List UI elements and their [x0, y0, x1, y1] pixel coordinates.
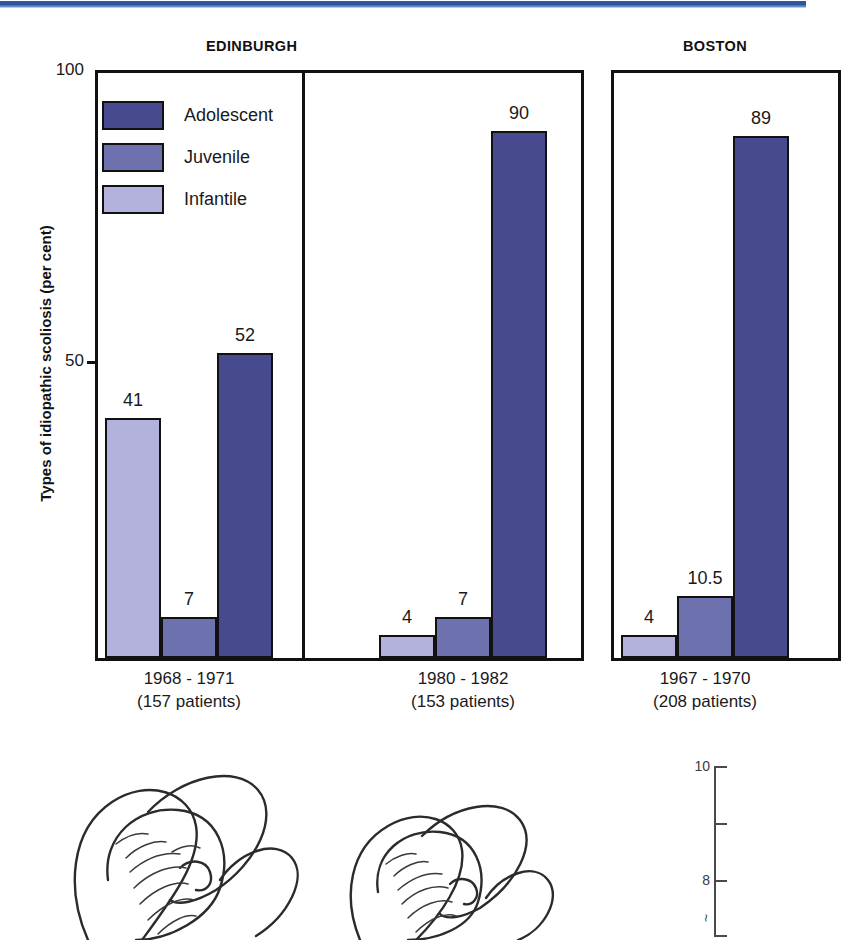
legend-swatch-adolescent: [102, 101, 164, 130]
bar-value-infantile-group-1: 41: [91, 390, 175, 411]
legend-label-adolescent: Adolescent: [184, 105, 273, 126]
bar-juvenile-group-1: [161, 617, 217, 658]
anatomical-sketch-area: 10 8 ~: [0, 730, 806, 937]
secondary-axis-line: [714, 766, 716, 937]
vertebra-sketch-left: [30, 740, 350, 940]
secondary-tick-8: [714, 880, 727, 882]
bar-infantile-group-2: [379, 635, 435, 658]
bar-adolescent-group-1: [217, 353, 273, 658]
bar-juvenile-group-3: [677, 596, 733, 658]
bar-infantile-group-1: [105, 418, 161, 658]
vertebra-sketch-right: [330, 780, 630, 940]
legend-item-infantile: Infantile: [102, 184, 273, 214]
region-title-boston: BOSTON: [683, 38, 747, 54]
secondary-tick-10: [714, 766, 727, 768]
bar-value-adolescent-group-3: 89: [719, 108, 803, 129]
legend-swatch-juvenile: [102, 143, 164, 172]
secondary-axis-partial: 10 8 ~: [700, 758, 806, 937]
group-label-1980-1982: 1980 - 1982 (153 patients): [353, 668, 573, 714]
secondary-axis-caption: ~: [698, 898, 714, 938]
group-patients-1: (157 patients): [79, 691, 299, 714]
legend-item-adolescent: Adolescent: [102, 100, 273, 130]
bar-juvenile-group-2: [435, 617, 491, 658]
group-label-1967-1970: 1967 - 1970 (208 patients): [595, 668, 815, 714]
bar-adolescent-group-2: [491, 131, 547, 658]
legend-label-juvenile: Juvenile: [184, 147, 250, 168]
group-label-1968-1971: 1968 - 1971 (157 patients): [79, 668, 299, 714]
bar-infantile-group-3: [621, 635, 677, 658]
secondary-tick-7: [714, 935, 727, 937]
bar-value-adolescent-group-2: 90: [477, 103, 561, 124]
bar-value-adolescent-group-1: 52: [203, 325, 287, 346]
group-period-2: 1980 - 1982: [353, 668, 573, 691]
group-patients-3: (208 patients): [595, 691, 815, 714]
secondary-tick-label-8: 8: [674, 872, 710, 888]
chart-legend: Adolescent Juvenile Infantile: [102, 100, 273, 226]
region-title-edinburgh: EDINBURGH: [206, 38, 297, 54]
bar-adolescent-group-3: [733, 136, 789, 658]
secondary-tick-label-10: 10: [674, 758, 710, 774]
group-patients-2: (153 patients): [353, 691, 573, 714]
legend-swatch-infantile: [102, 185, 164, 214]
y-tick-label-50: 50: [36, 351, 84, 371]
legend-label-infantile: Infantile: [184, 189, 247, 210]
group-period-3: 1967 - 1970: [595, 668, 815, 691]
y-tick-label-100: 100: [36, 60, 84, 80]
panel-divider: [302, 70, 305, 661]
secondary-tick-9: [714, 823, 727, 825]
legend-item-juvenile: Juvenile: [102, 142, 273, 172]
scoliosis-bar-chart: EDINBURGH BOSTON Types of idiopathic sco…: [0, 0, 806, 730]
group-period-1: 1968 - 1971: [79, 668, 299, 691]
